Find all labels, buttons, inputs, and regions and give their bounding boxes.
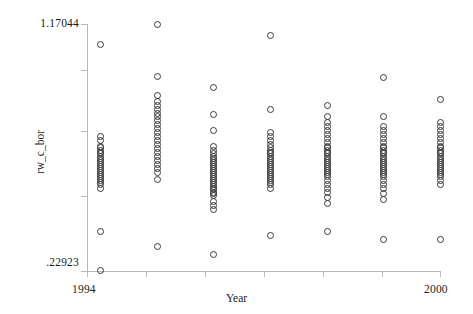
data-point-marker xyxy=(210,190,217,197)
data-point-marker xyxy=(437,127,444,134)
data-point-marker xyxy=(210,150,217,157)
data-point-marker xyxy=(437,165,444,172)
data-point-marker xyxy=(97,175,104,182)
data-point-marker xyxy=(437,236,444,243)
data-point-marker xyxy=(267,157,274,164)
data-point-marker xyxy=(154,73,161,80)
data-point-marker xyxy=(380,169,387,176)
data-point-marker xyxy=(97,181,104,188)
data-point-marker xyxy=(324,119,331,126)
data-point-marker xyxy=(210,155,217,162)
data-point-marker xyxy=(97,41,104,48)
data-point-marker xyxy=(324,163,331,170)
data-point-marker xyxy=(210,159,217,166)
data-point-marker xyxy=(324,169,331,176)
data-point-marker xyxy=(210,173,217,180)
data-point-marker xyxy=(154,98,161,105)
data-point-marker xyxy=(380,123,387,130)
data-point-marker xyxy=(324,131,331,138)
data-point-marker xyxy=(154,92,161,99)
data-point-marker xyxy=(210,189,217,196)
data-point-marker xyxy=(267,150,274,157)
data-point-marker xyxy=(267,32,274,39)
data-point-marker xyxy=(210,143,217,150)
data-point-marker xyxy=(380,167,387,174)
data-point-marker xyxy=(154,21,161,28)
data-point-marker xyxy=(97,171,104,178)
data-point-marker xyxy=(97,159,104,166)
data-point-marker xyxy=(154,161,161,168)
data-point-marker xyxy=(210,179,217,186)
data-point-marker xyxy=(210,183,217,190)
data-point-marker xyxy=(210,111,217,118)
data-point-marker xyxy=(267,106,274,113)
data-point-marker xyxy=(210,153,217,160)
data-point-marker xyxy=(97,169,104,176)
data-point-marker xyxy=(154,117,161,124)
data-point-marker xyxy=(324,147,331,154)
data-point-marker xyxy=(380,185,387,192)
data-point-marker xyxy=(154,106,161,113)
x-axis-tick-1994 xyxy=(87,271,88,277)
data-point-marker xyxy=(437,144,444,151)
data-point-marker xyxy=(437,147,444,154)
data-point-marker xyxy=(324,167,331,174)
data-point-marker xyxy=(154,125,161,132)
data-point-marker xyxy=(380,161,387,168)
data-point-marker xyxy=(267,155,274,162)
data-point-marker xyxy=(97,157,104,164)
data-point-marker xyxy=(154,137,161,144)
data-point-marker xyxy=(380,171,387,178)
data-point-marker xyxy=(437,123,444,130)
data-point-marker xyxy=(210,251,217,258)
y-axis-min-label: .22923 xyxy=(46,256,79,268)
data-point-marker xyxy=(210,181,217,188)
data-point-marker xyxy=(210,147,217,154)
data-point-marker xyxy=(97,161,104,168)
data-point-marker xyxy=(437,159,444,166)
data-point-marker xyxy=(97,137,104,144)
data-point-marker xyxy=(154,110,161,117)
data-point-marker xyxy=(437,96,444,103)
data-point-marker xyxy=(437,157,444,164)
data-point-marker xyxy=(380,196,387,203)
data-point-marker xyxy=(154,145,161,152)
data-point-marker xyxy=(437,143,444,150)
data-point-marker xyxy=(154,102,161,109)
data-point-marker xyxy=(210,171,217,178)
data-point-marker xyxy=(324,123,331,130)
data-point-marker xyxy=(210,177,217,184)
data-point-marker xyxy=(437,149,444,156)
data-point-marker xyxy=(210,185,217,192)
data-point-marker xyxy=(210,202,217,209)
data-point-marker xyxy=(380,113,387,120)
data-point-marker xyxy=(324,150,331,157)
data-point-marker xyxy=(210,161,217,168)
data-point-marker xyxy=(154,169,161,176)
data-point-marker xyxy=(267,232,274,239)
data-point-marker xyxy=(324,113,331,120)
data-point-marker xyxy=(324,157,331,164)
data-point-marker xyxy=(324,171,331,178)
data-point-marker xyxy=(267,169,274,176)
y-axis-line xyxy=(87,24,88,271)
data-point-marker xyxy=(154,133,161,140)
data-point-marker xyxy=(154,149,161,156)
data-point-marker xyxy=(324,159,331,166)
data-point-marker xyxy=(97,177,104,184)
data-point-marker xyxy=(97,228,104,235)
data-point-marker xyxy=(210,157,217,164)
data-point-marker xyxy=(267,179,274,186)
data-point-marker xyxy=(437,177,444,184)
y-axis-tick-minor xyxy=(81,131,88,132)
data-point-marker xyxy=(437,173,444,180)
data-point-marker xyxy=(380,181,387,188)
data-point-marker xyxy=(210,175,217,182)
x-axis-title: Year xyxy=(0,292,473,304)
x-axis-tick-1996 xyxy=(205,271,206,277)
data-point-marker xyxy=(210,163,217,170)
data-point-marker xyxy=(437,131,444,138)
data-point-marker xyxy=(154,129,161,136)
data-point-marker xyxy=(324,135,331,142)
data-point-marker xyxy=(210,198,217,205)
